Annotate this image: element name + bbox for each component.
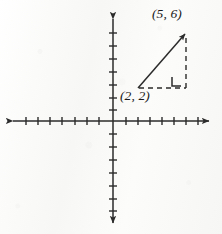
x-axis-group xyxy=(13,117,209,125)
point-label-5-6: (5, 6) xyxy=(152,6,182,22)
hypotenuse-segment xyxy=(138,34,185,88)
point-label-2-2: (2, 2) xyxy=(120,88,150,104)
right-angle-marker-icon xyxy=(172,77,181,86)
coordinate-plane-svg xyxy=(0,0,222,234)
figure-canvas: (5, 6) (2, 2) xyxy=(0,0,222,234)
triangle-group xyxy=(138,34,186,88)
